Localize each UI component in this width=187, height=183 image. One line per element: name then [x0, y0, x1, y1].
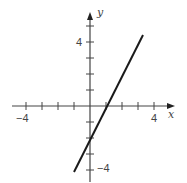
y-axis-label: y [96, 6, 104, 19]
y-tick-label-neg4: −4 [97, 162, 110, 174]
plotted-line [74, 35, 143, 172]
y-axis-arrow-icon [87, 12, 93, 20]
y-tick-label-4: 4 [76, 36, 82, 48]
coordinate-plane: −4 4 4 −4 x y [0, 0, 187, 183]
x-tick-label-4: 4 [151, 112, 157, 124]
x-axis-label: x [168, 108, 175, 121]
x-tick-label-neg4: −4 [16, 112, 29, 124]
